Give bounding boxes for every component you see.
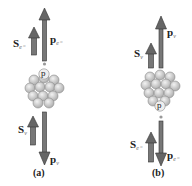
subscript: ν — [140, 54, 143, 60]
spin-neutrino-label: Sν — [18, 124, 27, 136]
panel-a — [25, 8, 64, 165]
subscript: ν — [24, 130, 27, 136]
subscript: e⁻ — [19, 44, 25, 50]
spin-arrow-up-icon — [29, 27, 40, 55]
spin-electron-label: Se⁻ — [13, 38, 25, 50]
vertex-dot — [159, 115, 162, 118]
spin-arrow-up-icon — [146, 132, 157, 162]
beta-decay-diagram — [0, 0, 192, 186]
spin-electron-label: Se⁻ — [130, 139, 142, 151]
momentum-arrow-up-icon — [39, 8, 50, 61]
momentum-arrow-down-icon — [39, 112, 50, 165]
spin-neutrino-label: Sν — [134, 48, 143, 60]
proton-label: p — [157, 101, 162, 110]
spin-arrow-up-icon — [146, 43, 157, 68]
proton-label: p — [41, 69, 46, 78]
caption-a: (a) — [33, 167, 45, 178]
momentum-neutrino-label: pν — [167, 27, 176, 39]
caption-b: (b) — [152, 167, 164, 178]
momentum-electron-label: pe⁻ — [167, 150, 179, 162]
subscript: ν — [56, 160, 59, 166]
vertex-dot — [43, 62, 46, 65]
subscript: e⁻ — [173, 156, 179, 162]
subscript: e⁻ — [56, 40, 62, 46]
momentum-arrow-up-icon — [156, 16, 167, 68]
subscript: e⁻ — [136, 145, 142, 151]
momentum-arrow-down-icon — [156, 121, 167, 166]
momentum-neutrino-label: pν — [50, 154, 59, 166]
momentum-electron-label: pe⁻ — [50, 34, 62, 46]
subscript: ν — [173, 33, 176, 39]
spin-arrow-up-icon — [28, 116, 39, 145]
